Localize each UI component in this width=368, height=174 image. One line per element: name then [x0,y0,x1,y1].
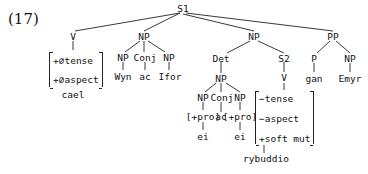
node-conj: Conj [134,52,157,63]
v-feature-matrix: +∅tense +∅aspect [49,52,103,87]
v2-feature: −aspect [259,113,310,124]
v-feature: +∅aspect [53,74,99,85]
node-np-object: NP [248,31,259,42]
node-np: NP [117,52,128,63]
node-np: NP [234,92,245,103]
word-wyn: Wyn [114,71,131,82]
node-conj: Conj [211,92,234,103]
word-gan: gan [305,73,322,84]
node-s1: S1 [177,3,188,14]
node-v: V [70,31,76,42]
node-pp: PP [327,31,338,42]
node-v: V [281,72,287,83]
v-feature: +∅tense [53,55,99,66]
word-ei: ei [234,131,245,142]
example-number: (17) [8,10,39,28]
node-np: NP [215,73,226,84]
node-np: NP [163,52,174,63]
word-rybuddio: rybuddio [243,153,289,164]
node-s2: S2 [278,53,289,64]
node-np: NP [344,53,355,64]
word-ac: ac [139,71,150,82]
word-cael: cael [62,89,85,100]
pro-feature: [+pro] [223,111,257,122]
node-p: P [311,53,317,64]
v2-feature: −tense [259,93,310,104]
node-np: NP [197,92,208,103]
v2-feature: +soft mut [259,133,310,144]
v2-feature-matrix: −tense −aspect +soft mut [255,91,314,144]
word-emyr: Emyr [339,73,362,84]
word-ifor: Ifor [159,71,182,82]
node-det: Det [212,53,229,64]
tree-edges [0,0,368,174]
node-np-subject: NP [138,31,149,42]
word-ei: ei [197,131,208,142]
